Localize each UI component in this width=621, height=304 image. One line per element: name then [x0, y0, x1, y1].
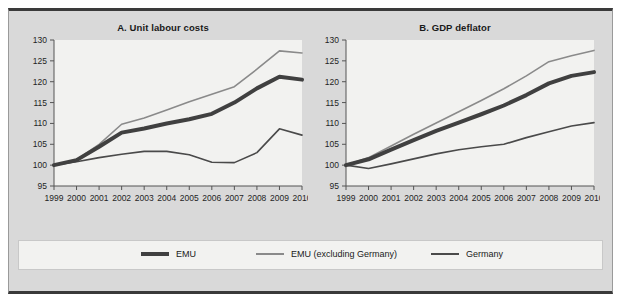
y-tick-label: 115	[33, 98, 47, 108]
y-tick-label: 125	[325, 56, 339, 66]
x-tick-label: 2001	[90, 193, 109, 203]
legend-line-emu-excluding-germany-icon	[256, 253, 284, 255]
x-tick-label: 2009	[270, 193, 289, 203]
legend-item-emu: EMU	[141, 249, 196, 259]
legend-item-germany: Germany	[431, 249, 503, 259]
x-tick-label: 2006	[494, 193, 513, 203]
x-tick-label: 2008	[247, 193, 266, 203]
x-tick-label: 2009	[562, 193, 581, 203]
x-tick-label: 2010	[585, 193, 600, 203]
y-tick-label: 130	[325, 35, 339, 45]
x-tick-label: 2003	[135, 193, 154, 203]
y-tick-label: 130	[33, 35, 47, 45]
x-tick-label: 2007	[225, 193, 244, 203]
chart-b-svg: 9510010511011512012513019992000200120022…	[310, 16, 600, 231]
chart-b-plot-area: 9510010511011512012513019992000200120022…	[310, 16, 600, 231]
chart-a-plot-area: 9510010511011512012513019992000200120022…	[18, 16, 308, 231]
legend-label-germany: Germany	[466, 249, 503, 259]
y-tick-label: 120	[325, 77, 339, 87]
x-tick-label: 2010	[293, 193, 308, 203]
figure-root: A. Unit labour costs 9510010511011512012…	[0, 0, 621, 304]
x-tick-label: 2002	[404, 193, 423, 203]
x-tick-label: 2006	[202, 193, 221, 203]
x-tick-label: 2008	[539, 193, 558, 203]
chart-a-svg: 9510010511011512012513019992000200120022…	[18, 16, 308, 231]
legend-label-emu: EMU	[176, 249, 196, 259]
y-tick-label: 95	[38, 181, 48, 191]
x-tick-label: 1999	[337, 193, 356, 203]
y-tick-label: 95	[330, 181, 340, 191]
legend-items-container: EMU EMU (excluding Germany) Germany	[19, 241, 604, 271]
x-tick-label: 2000	[359, 193, 378, 203]
x-tick-label: 2007	[517, 193, 536, 203]
x-tick-label: 2005	[180, 193, 199, 203]
y-tick-label: 100	[33, 160, 47, 170]
y-tick-label: 120	[33, 77, 47, 87]
legend-item-emu-excluding-germany: EMU (excluding Germany)	[256, 249, 397, 259]
y-tick-label: 125	[33, 56, 47, 66]
y-tick-label: 105	[33, 139, 47, 149]
x-tick-label: 2002	[112, 193, 131, 203]
chart-panel-b: B. GDP deflator 951001051101151201251301…	[310, 16, 600, 231]
chart-legend: EMU EMU (excluding Germany) Germany	[18, 240, 603, 270]
y-tick-label: 105	[325, 139, 339, 149]
y-tick-label: 110	[33, 118, 47, 128]
x-tick-label: 2004	[157, 193, 176, 203]
y-tick-label: 115	[325, 98, 339, 108]
x-tick-label: 2003	[427, 193, 446, 203]
y-tick-label: 100	[325, 160, 339, 170]
legend-line-emu-icon	[141, 252, 169, 256]
x-tick-label: 2000	[67, 193, 86, 203]
x-tick-label: 2004	[449, 193, 468, 203]
plot-background	[346, 40, 594, 186]
legend-label-emu-excluding-germany: EMU (excluding Germany)	[291, 249, 397, 259]
chart-panel-a: A. Unit labour costs 9510010511011512012…	[18, 16, 308, 231]
legend-line-germany-icon	[431, 253, 459, 255]
x-tick-label: 2001	[382, 193, 401, 203]
panels-container: A. Unit labour costs 9510010511011512012…	[8, 8, 613, 294]
x-tick-label: 2005	[472, 193, 491, 203]
y-tick-label: 110	[325, 118, 339, 128]
x-tick-label: 1999	[45, 193, 64, 203]
